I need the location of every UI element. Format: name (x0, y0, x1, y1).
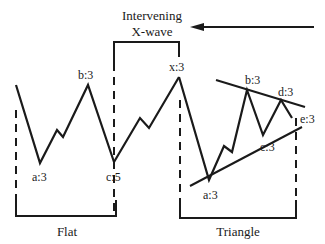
caption-triangle: Triangle (216, 224, 260, 239)
elliott-wave-diagram: Intervening X-wave (0, 0, 325, 244)
title-line-2: X-wave (131, 24, 172, 39)
title-line-1: Intervening (122, 8, 182, 23)
triangle-wave-path (179, 77, 292, 180)
label-tri-a: a:3 (203, 188, 218, 202)
flat-bracket (16, 200, 116, 216)
label-flat-c: c:5 (106, 170, 121, 184)
label-tri-e: e:3 (300, 112, 315, 126)
label-tri-d: d:3 (278, 85, 293, 99)
label-flat-b: b:3 (78, 68, 93, 82)
label-tri-b: b:3 (245, 73, 260, 87)
label-tri-c: c:3 (260, 140, 275, 154)
x-wave-path (114, 77, 179, 162)
label-x: x:3 (169, 60, 184, 74)
triangle-bracket (180, 200, 296, 218)
left-arrow-icon (190, 23, 314, 31)
label-flat-a: a:3 (32, 170, 47, 184)
caption-flat: Flat (57, 224, 78, 239)
flat-wave-path (16, 85, 114, 163)
diagram-svg: Intervening X-wave (0, 0, 325, 244)
triangle-lower-trendline (190, 127, 302, 186)
